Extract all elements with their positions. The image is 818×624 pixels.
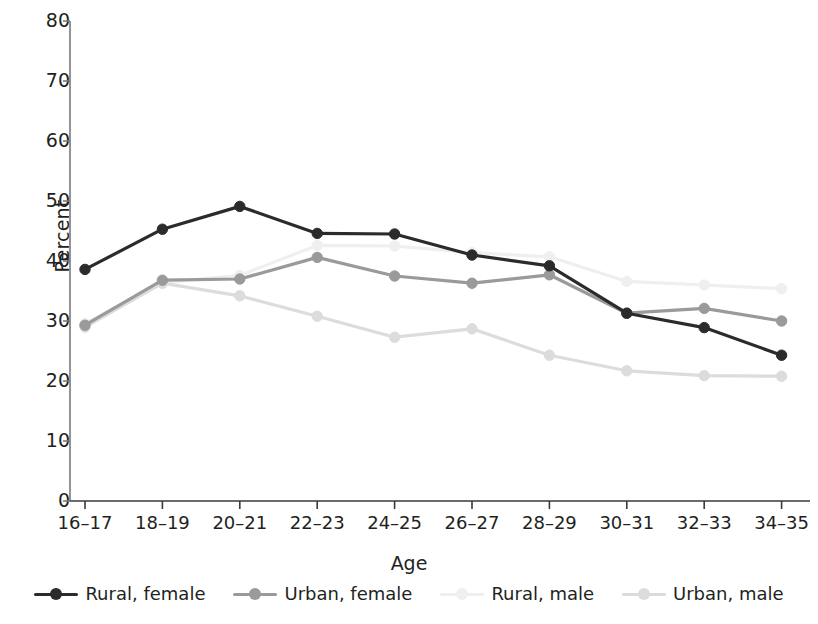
data-point [544, 261, 554, 271]
data-point [80, 264, 90, 274]
data-point [80, 320, 90, 330]
data-point [312, 240, 322, 250]
legend-marker-dot [249, 588, 261, 600]
data-point [389, 332, 399, 342]
data-point [776, 316, 786, 326]
data-point [699, 322, 709, 332]
data-point [544, 350, 554, 360]
legend-swatch-icon [34, 587, 78, 601]
data-point [776, 350, 786, 360]
data-point [699, 370, 709, 380]
legend-swatch-icon [233, 587, 277, 601]
data-point [389, 271, 399, 281]
legend-swatch-icon [622, 587, 666, 601]
data-point [157, 224, 167, 234]
line-chart: Percent 80706050403020100 16–1718–1920–2… [0, 0, 818, 624]
legend-item[interactable]: Urban, female [233, 583, 412, 604]
data-point [622, 308, 632, 318]
legend-label: Rural, male [491, 583, 594, 604]
x-axis-title: Age [0, 552, 818, 574]
data-point [622, 276, 632, 286]
series-line [85, 283, 782, 376]
data-point [622, 366, 632, 376]
legend-label: Rural, female [85, 583, 205, 604]
data-point [467, 278, 477, 288]
data-point [699, 303, 709, 313]
data-point [235, 274, 245, 284]
x-axis-tick-label: 34–35 [737, 512, 818, 533]
data-point [699, 280, 709, 290]
data-point [312, 228, 322, 238]
legend-label: Urban, male [673, 583, 784, 604]
legend-item[interactable]: Rural, male [440, 583, 594, 604]
data-point [235, 201, 245, 211]
series-urban-male [80, 278, 787, 381]
legend-swatch-icon [440, 587, 484, 601]
series-line [85, 257, 782, 325]
data-point [312, 311, 322, 321]
series-line [85, 245, 782, 323]
legend-label: Urban, female [284, 583, 412, 604]
series-urban-female [80, 252, 787, 330]
legend-item[interactable]: Rural, female [34, 583, 205, 604]
legend-marker-dot [638, 588, 650, 600]
data-point [776, 371, 786, 381]
data-point [776, 283, 786, 293]
data-point [235, 291, 245, 301]
data-point [157, 275, 167, 285]
data-point [389, 229, 399, 239]
data-point [312, 252, 322, 262]
data-point [467, 324, 477, 334]
series-rural-male [80, 240, 787, 328]
legend-item[interactable]: Urban, male [622, 583, 784, 604]
data-point [467, 250, 477, 260]
legend-marker-dot [50, 588, 62, 600]
chart-legend: Rural, femaleUrban, femaleRural, maleUrb… [0, 583, 818, 604]
data-point [389, 241, 399, 251]
legend-marker-dot [456, 588, 468, 600]
